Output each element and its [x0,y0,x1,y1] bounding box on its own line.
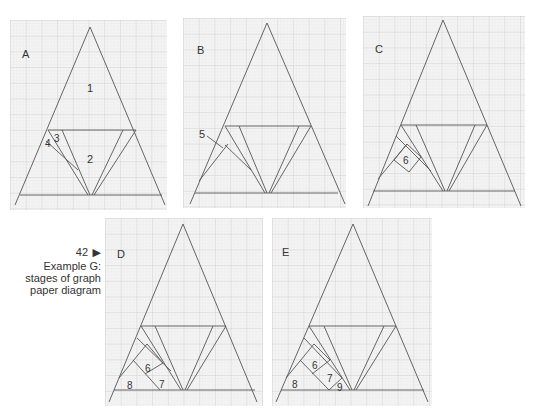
svg-text:1: 1 [87,82,93,94]
diagram-d: D 6 7 8 [105,218,263,406]
arrow-right-icon: ▶ [93,246,101,258]
panel-b: B 5 [183,18,346,208]
panel-label: D [117,248,125,260]
caption-line-3: paper diagram [0,284,101,296]
panel-a: A 1 2 3 4 [10,20,167,210]
figure-caption: 42 ▶ Example G: stages of graph paper di… [0,242,101,296]
panel-label: E [282,246,289,258]
svg-text:6: 6 [403,155,409,166]
svg-text:8: 8 [292,379,298,390]
svg-text:8: 8 [127,380,133,391]
caption-line-2: stages of graph [0,272,101,284]
panel-e: E 6 7 8 9 [272,218,432,406]
svg-text:7: 7 [159,379,165,390]
svg-text:6: 6 [145,363,151,374]
diagram-a: A 1 2 3 4 [10,20,167,210]
diagram-e: E 6 7 8 9 [272,218,432,406]
diagram-b: B 5 [183,18,346,208]
figure-number: 42 [76,246,88,258]
caption-line-1: Example G: [0,260,101,272]
svg-text:9: 9 [337,382,343,393]
panel-d: D 6 7 8 [105,218,263,406]
svg-text:2: 2 [87,153,93,165]
panel-label: C [375,43,383,55]
svg-text:7: 7 [327,373,333,384]
svg-text:5: 5 [199,128,205,140]
panel-label: A [22,48,30,60]
svg-text:3: 3 [54,133,60,144]
svg-text:6: 6 [312,360,318,371]
panel-label: B [197,44,204,56]
diagram-c: C 6 [363,16,525,208]
panel-c: C 6 [363,16,525,208]
figure-number-row: 42 ▶ [0,242,101,260]
svg-text:4: 4 [45,138,51,149]
